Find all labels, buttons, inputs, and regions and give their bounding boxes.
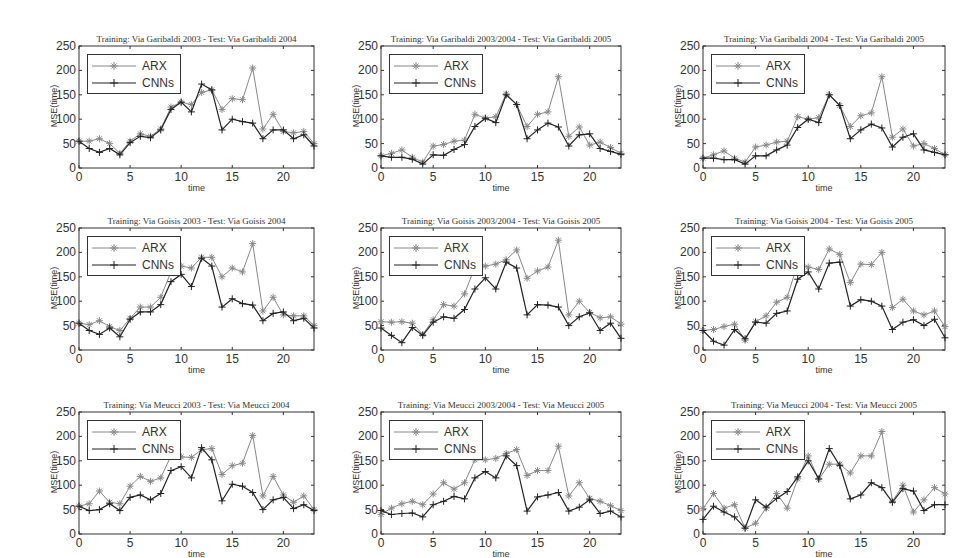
y-tick-label: 250 xyxy=(680,39,700,53)
y-tick-label: 100 xyxy=(358,294,378,308)
y-axis-label: MSE(time) xyxy=(673,76,683,136)
legend-label: CNNs xyxy=(142,258,174,272)
legend-label: ARX xyxy=(766,425,791,439)
arx-marker xyxy=(607,313,614,320)
y-tick-label: 200 xyxy=(680,429,700,443)
arx-marker xyxy=(920,496,927,503)
arx-marker xyxy=(910,143,917,150)
arx-marker xyxy=(899,125,906,132)
y-tick-label: 100 xyxy=(680,112,700,126)
y-tick-label: 150 xyxy=(680,270,700,284)
legend-item-arx: ARX xyxy=(92,239,174,256)
subplot-5: Training: Via Goisis 2003/2004 - Test: V… xyxy=(323,182,649,368)
legend: ARXCNNs xyxy=(389,236,483,276)
arx-marker xyxy=(440,301,447,308)
arx-marker xyxy=(763,312,770,319)
arx-marker xyxy=(868,109,875,116)
x-tick-label: 10 xyxy=(802,536,816,550)
arx-marker xyxy=(513,246,520,253)
legend-label: CNNs xyxy=(142,76,174,90)
y-tick-label: 100 xyxy=(680,478,700,492)
x-axis-label: time xyxy=(703,549,945,558)
arx-marker xyxy=(513,446,520,453)
x-tick-label: 10 xyxy=(479,352,493,366)
legend: ARXCNNs xyxy=(711,54,805,94)
arx-marker xyxy=(868,452,875,459)
arx-marker xyxy=(229,462,236,469)
subplot-3: Training: Via Garibaldi 2004 - Test: Via… xyxy=(647,0,973,186)
y-tick-label: 200 xyxy=(358,245,378,259)
arx-marker xyxy=(931,484,938,491)
y-tick-label: 100 xyxy=(56,294,76,308)
arx-marker xyxy=(710,326,717,333)
y-tick-label: 50 xyxy=(687,137,701,151)
legend-item-arx: ARX xyxy=(716,239,798,256)
x-tick-label: 5 xyxy=(127,536,134,550)
arx-marker xyxy=(137,473,144,480)
cnns-legend-marker-icon xyxy=(716,259,760,271)
x-tick-label: 5 xyxy=(752,352,759,366)
arx-marker xyxy=(920,311,927,318)
arx-marker xyxy=(618,321,625,328)
legend-label: CNNs xyxy=(142,442,174,456)
arx-marker xyxy=(208,254,215,261)
arx-marker xyxy=(868,261,875,268)
y-tick-label: 200 xyxy=(680,245,700,259)
arx-marker xyxy=(878,249,885,256)
arx-marker xyxy=(378,318,385,325)
arx-marker xyxy=(419,501,426,508)
arx-marker xyxy=(430,490,437,497)
arx-marker xyxy=(229,95,236,102)
legend-label: ARX xyxy=(444,59,469,73)
arx-marker xyxy=(565,492,572,499)
y-axis-label: MSE(time) xyxy=(351,442,361,502)
legend-item-cnns: CNNs xyxy=(92,74,174,91)
subplot-4: Training: Via Goisis 2003 - Test: Via Go… xyxy=(0,182,326,368)
arx-marker xyxy=(398,318,405,325)
legend-label: CNNs xyxy=(766,76,798,90)
y-tick-label: 100 xyxy=(680,294,700,308)
arx-marker xyxy=(188,454,195,461)
arx-marker xyxy=(597,314,604,321)
cnns-legend-marker-icon xyxy=(716,443,760,455)
arx-marker xyxy=(96,135,103,142)
y-tick-label: 150 xyxy=(358,454,378,468)
x-tick-label: 5 xyxy=(430,536,437,550)
cnns-legend-marker-icon xyxy=(92,77,136,89)
y-tick-label: 100 xyxy=(56,478,76,492)
arx-marker xyxy=(942,490,949,497)
y-tick-label: 150 xyxy=(680,454,700,468)
y-tick-label: 50 xyxy=(687,319,701,333)
arx-legend-marker-icon xyxy=(394,60,438,72)
legend-item-arx: ARX xyxy=(92,57,174,74)
y-tick-label: 250 xyxy=(358,39,378,53)
y-tick-label: 50 xyxy=(365,319,379,333)
x-tick-label: 5 xyxy=(430,352,437,366)
arx-marker xyxy=(270,473,277,480)
legend-item-cnns: CNNs xyxy=(394,256,476,273)
x-tick-label: 10 xyxy=(479,536,493,550)
x-tick-label: 0 xyxy=(378,536,385,550)
y-axis-label: MSE(time) xyxy=(49,442,59,502)
legend: ARXCNNs xyxy=(389,420,483,460)
cnns-legend-marker-icon xyxy=(394,443,438,455)
subplot-8: Training: Via Meucci 2003/2004 - Test: V… xyxy=(323,366,649,552)
arx-marker xyxy=(931,307,938,314)
plot-area: 05010015020025005101520 xyxy=(323,0,649,186)
y-axis-label: MSE(time) xyxy=(49,258,59,318)
arx-marker xyxy=(388,505,395,512)
legend-item-arx: ARX xyxy=(394,239,476,256)
arx-marker xyxy=(836,251,843,258)
arx-marker xyxy=(440,141,447,148)
x-tick-label: 15 xyxy=(854,352,868,366)
arx-marker xyxy=(290,499,297,506)
arx-marker xyxy=(565,133,572,140)
y-tick-label: 200 xyxy=(56,429,76,443)
arx-marker xyxy=(127,483,134,490)
arx-marker xyxy=(889,134,896,141)
cnns-legend-marker-icon xyxy=(92,443,136,455)
arx-marker xyxy=(249,240,256,247)
arx-marker xyxy=(565,311,572,318)
arx-marker xyxy=(259,492,266,499)
x-tick-label: 20 xyxy=(907,352,921,366)
